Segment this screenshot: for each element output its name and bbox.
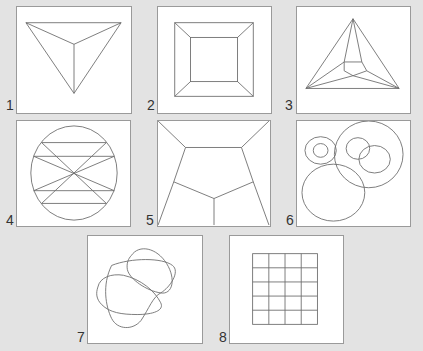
panel-1 [16, 6, 132, 114]
panel-4 [16, 120, 131, 227]
panel-8 [229, 235, 344, 344]
panel-label-6: 6 [286, 213, 294, 227]
panel-7 [87, 235, 203, 344]
figure-closed-curves [88, 236, 202, 343]
figure-nested-squares [158, 7, 271, 113]
figure-grid [230, 236, 343, 343]
panel-6 [296, 120, 411, 227]
panel-3 [296, 6, 411, 114]
figure-square-subdivided [158, 121, 270, 226]
panel-label-7: 7 [77, 330, 85, 344]
panel-label-5: 5 [146, 213, 154, 227]
panel-2 [157, 6, 272, 114]
panel-label-1: 1 [6, 98, 14, 112]
figure-circle-chords [17, 121, 130, 226]
panel-5 [157, 120, 271, 227]
panel-label-4: 4 [6, 213, 14, 227]
figure-overlapping-circles [297, 121, 410, 226]
figure-triangle-subdivided [297, 7, 410, 113]
panel-label-8: 8 [219, 330, 227, 344]
panel-label-3: 3 [285, 98, 293, 112]
figure-triangle-center-point [17, 7, 131, 113]
panel-label-2: 2 [147, 98, 155, 112]
